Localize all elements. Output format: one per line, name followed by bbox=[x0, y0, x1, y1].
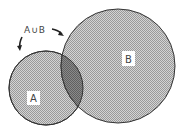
union-label: A∪B bbox=[24, 25, 46, 35]
label-a: A bbox=[30, 93, 37, 104]
venn-diagram: A B A∪B bbox=[0, 0, 184, 131]
arrow-to-b-icon bbox=[52, 29, 64, 36]
label-b-box: B bbox=[122, 51, 135, 66]
arrow-to-a-icon bbox=[17, 37, 22, 51]
label-a-box: A bbox=[27, 91, 40, 105]
label-b: B bbox=[125, 54, 132, 65]
